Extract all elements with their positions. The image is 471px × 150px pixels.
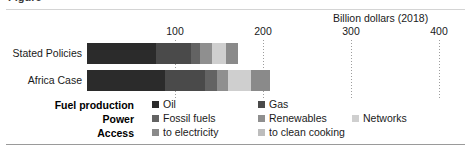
plot-area	[87, 40, 447, 98]
bar-segment	[191, 43, 201, 64]
legend-group-title: Fuel production	[0, 99, 134, 111]
category-label: Stated Policies	[0, 47, 82, 59]
legend-row: PowerFossil fuelsRenewablesNetworks	[0, 113, 471, 127]
legend-item[interactable]: Oil	[152, 99, 176, 110]
bar-segment	[251, 70, 270, 91]
legend-swatch-icon	[152, 101, 159, 108]
bar-africa-case	[87, 70, 270, 91]
legend-row: Fuel productionOilGas	[0, 99, 471, 113]
cropped-title: Figure	[0, 0, 471, 6]
legend-item[interactable]: Fossil fuels	[152, 113, 216, 124]
legend-item-label: to electricity	[163, 127, 218, 138]
bar-segment	[87, 70, 165, 91]
bar-segment	[205, 70, 217, 91]
bar-segment	[228, 70, 251, 91]
bar-segment	[87, 43, 156, 64]
bottom-divider	[6, 144, 465, 145]
legend-swatch-icon	[258, 115, 265, 122]
x-tick-label: 200	[254, 25, 272, 37]
bar-segment	[226, 43, 238, 64]
bar-segment	[212, 43, 226, 64]
legend-swatch-icon	[352, 115, 359, 122]
bar-segment	[200, 43, 211, 64]
legend-swatch-icon	[152, 115, 159, 122]
category-label: Africa Case	[0, 74, 82, 86]
bar-segment	[156, 43, 191, 64]
legend-group-title: Power	[0, 113, 134, 125]
legend-item[interactable]: Gas	[258, 99, 288, 110]
bar-segment	[217, 70, 228, 91]
bar-segment	[165, 70, 205, 91]
legend-item-label: Renewables	[269, 113, 327, 124]
legend-item[interactable]: Renewables	[258, 113, 327, 124]
legend-item[interactable]: Networks	[352, 113, 407, 124]
legend-group-title: Access	[0, 127, 134, 139]
legend-item-label: Gas	[269, 99, 288, 110]
legend-swatch-icon	[258, 129, 265, 136]
legend-row: Accessto electricityto clean cooking	[0, 127, 471, 141]
legend-item-label: Networks	[363, 113, 407, 124]
x-tick-label: 400	[430, 25, 448, 37]
bar-stated-policies	[87, 43, 238, 64]
x-tick-label: 100	[166, 25, 184, 37]
legend-swatch-icon	[152, 129, 159, 136]
legend-item-label: Oil	[163, 99, 176, 110]
cropped-title-text: Figure	[8, 0, 42, 3]
legend-swatch-icon	[258, 101, 265, 108]
chart-legend: Fuel productionOilGasPowerFossil fuelsRe…	[0, 99, 471, 141]
top-divider	[6, 9, 465, 10]
legend-item-label: to clean cooking	[269, 127, 345, 138]
legend-item[interactable]: to clean cooking	[258, 127, 345, 138]
x-tick-label: 300	[342, 25, 360, 37]
axis-unit-label: Billion dollars (2018)	[333, 12, 428, 24]
chart-figure: Figure Billion dollars (2018) 1002003004…	[0, 0, 471, 150]
legend-item[interactable]: to electricity	[152, 127, 218, 138]
legend-item-label: Fossil fuels	[163, 113, 216, 124]
